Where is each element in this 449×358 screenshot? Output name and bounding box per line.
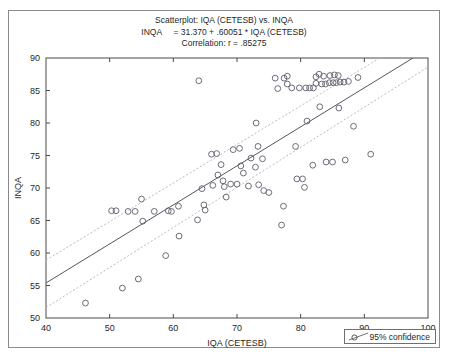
data-point bbox=[220, 178, 226, 184]
data-point bbox=[293, 144, 299, 150]
svg-text:80: 80 bbox=[30, 118, 40, 128]
y-axis-label: INQA bbox=[13, 177, 23, 199]
scatterplot-canvas: 405060708090100505560657075808590IQA (CE… bbox=[9, 11, 441, 349]
data-point bbox=[313, 80, 319, 86]
svg-text:80: 80 bbox=[296, 323, 306, 333]
svg-text:60: 60 bbox=[168, 323, 178, 333]
data-point bbox=[310, 162, 316, 168]
svg-text:75: 75 bbox=[30, 151, 40, 161]
data-point bbox=[368, 151, 374, 157]
data-point bbox=[275, 86, 281, 92]
data-point bbox=[256, 182, 262, 188]
svg-text:60: 60 bbox=[30, 248, 40, 258]
data-point bbox=[323, 81, 329, 87]
data-point bbox=[355, 75, 361, 81]
data-point bbox=[221, 184, 227, 190]
data-point bbox=[279, 222, 285, 228]
data-point bbox=[163, 253, 169, 259]
svg-text:85: 85 bbox=[30, 86, 40, 96]
svg-text:65: 65 bbox=[30, 216, 40, 226]
data-point bbox=[296, 85, 302, 91]
data-point bbox=[176, 233, 182, 239]
data-point bbox=[266, 190, 272, 196]
data-point bbox=[237, 145, 243, 151]
data-point bbox=[120, 285, 126, 291]
axes-group bbox=[46, 58, 428, 318]
data-point bbox=[135, 276, 141, 282]
regression-line-group bbox=[46, 49, 428, 283]
data-point bbox=[210, 183, 216, 189]
data-point bbox=[335, 73, 341, 79]
data-point bbox=[83, 300, 89, 306]
data-point bbox=[351, 123, 357, 129]
data-point bbox=[294, 176, 300, 182]
data-point bbox=[195, 217, 201, 223]
data-point bbox=[342, 157, 348, 163]
data-point bbox=[223, 194, 229, 200]
data-point bbox=[255, 144, 261, 150]
svg-text:50: 50 bbox=[30, 313, 40, 323]
data-point bbox=[317, 104, 323, 110]
data-point bbox=[300, 176, 306, 182]
data-point bbox=[330, 159, 336, 165]
data-point bbox=[336, 105, 342, 111]
data-point bbox=[281, 203, 287, 209]
data-point bbox=[302, 184, 308, 190]
data-point bbox=[228, 181, 234, 187]
data-point bbox=[246, 183, 252, 189]
legend-label: 95% confidence bbox=[370, 332, 431, 342]
svg-text:50: 50 bbox=[105, 323, 115, 333]
legend[interactable]: 95% confidence bbox=[344, 329, 437, 344]
data-point bbox=[240, 170, 246, 176]
data-point bbox=[151, 209, 157, 215]
data-point bbox=[289, 85, 295, 91]
line-with-circle-marker-icon bbox=[348, 331, 370, 342]
svg-text:70: 70 bbox=[30, 183, 40, 193]
data-points-group bbox=[83, 71, 374, 306]
x-axis-label: IQA (CETESB) bbox=[207, 338, 267, 348]
data-point bbox=[230, 147, 236, 153]
data-point bbox=[272, 75, 278, 81]
data-point bbox=[132, 209, 138, 215]
data-point bbox=[260, 156, 266, 162]
data-point bbox=[176, 203, 182, 209]
data-point bbox=[253, 164, 259, 170]
data-point bbox=[139, 196, 145, 202]
data-point bbox=[234, 181, 240, 187]
svg-text:90: 90 bbox=[30, 53, 40, 63]
confidence-band-group bbox=[46, 29, 428, 308]
data-point bbox=[323, 159, 329, 165]
svg-text:55: 55 bbox=[30, 281, 40, 291]
data-point bbox=[253, 120, 259, 126]
data-point bbox=[218, 162, 224, 168]
svg-text:70: 70 bbox=[232, 323, 242, 333]
svg-text:40: 40 bbox=[41, 323, 51, 333]
data-point bbox=[196, 78, 202, 84]
data-point bbox=[202, 207, 208, 213]
figure-frame: Scatterplot: IQA (CETESB) vs. INQA INQA … bbox=[8, 10, 440, 348]
axis-labels-group: 405060708090100505560657075808590IQA (CE… bbox=[13, 53, 436, 348]
